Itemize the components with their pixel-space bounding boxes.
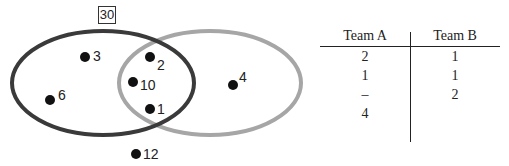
point-dot [45, 95, 55, 105]
dark-set-ellipse [12, 31, 194, 135]
table-divider [410, 32, 411, 142]
cell-team-a: 2 [320, 47, 410, 66]
cell-team-b [410, 104, 500, 123]
point-dot [128, 77, 138, 87]
point-label: 12 [143, 146, 159, 162]
point-dot [145, 52, 155, 62]
header-team-a: Team A [320, 28, 410, 44]
venn-diagram: 3 6 2 10 1 4 12 [0, 0, 310, 166]
cell-team-b: 1 [410, 47, 500, 66]
point-dot [131, 149, 141, 159]
cell-team-a: 4 [320, 104, 410, 123]
point-dot [145, 104, 155, 114]
cell-team-a: – [320, 85, 410, 104]
team-table: Team A Team B 2 1 1 1 – 2 4 [320, 28, 500, 123]
cell-team-b: 2 [410, 85, 500, 104]
point-label: 2 [157, 57, 165, 73]
point-dot [80, 52, 90, 62]
cell-team-b: 1 [410, 66, 500, 85]
point-label: 10 [140, 77, 156, 93]
point-dot [228, 80, 238, 90]
point-label: 3 [93, 48, 101, 64]
cell-team-a: 1 [320, 66, 410, 85]
header-team-b: Team B [410, 28, 500, 44]
point-label: 1 [157, 101, 165, 117]
point-label: 4 [239, 69, 247, 85]
point-label: 6 [58, 87, 66, 103]
